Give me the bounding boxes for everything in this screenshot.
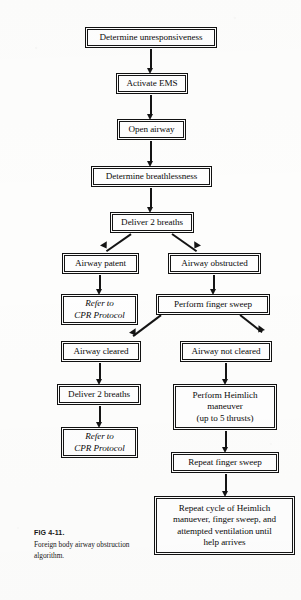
connector-n2-n3 bbox=[150, 95, 152, 116]
arrowhead-n11-n14 bbox=[222, 379, 228, 385]
flow-node-line: Repeat cycle of Heimlich bbox=[179, 503, 270, 513]
figure-caption: FIG 4-11. Foreign body airway obstructio… bbox=[34, 528, 152, 561]
flow-node-airway-cleared: Airway cleared bbox=[63, 343, 139, 360]
flow-node-label: Airway patent bbox=[75, 258, 126, 268]
flow-node-label: Deliver 2 breaths bbox=[68, 389, 130, 399]
flow-node-label: Repeat finger sweep bbox=[188, 457, 261, 467]
flow-node-determine-unresponsiveness: Determine unresponsiveness bbox=[87, 29, 215, 46]
flow-node-line: Refer to bbox=[85, 431, 114, 441]
flow-node-label: Repeat cycle of Heimlich manuever, finge… bbox=[173, 503, 276, 548]
flow-node-line: attempted ventilation until bbox=[177, 526, 272, 536]
flow-node-determine-breathlessness: Determine breathlessness bbox=[93, 168, 210, 185]
arrowhead-n2-n3 bbox=[147, 114, 153, 120]
arrowhead-n9-n11 bbox=[255, 325, 265, 335]
flow-node-label: Open airway bbox=[128, 124, 174, 134]
flow-node-label: Refer to CPR Protocol bbox=[74, 298, 124, 321]
connector-n5-n6 bbox=[106, 233, 132, 252]
flow-node-label: Perform Heimlich maneuver (up to 5 thrus… bbox=[192, 390, 257, 424]
flow-node-perform-finger-sweep: Perform finger sweep bbox=[158, 296, 268, 313]
flow-node-refer-to-cpr-protocol-bottom: Refer to CPR Protocol bbox=[63, 429, 136, 456]
connector-n1-n2 bbox=[150, 49, 152, 70]
flow-node-line: help arrives bbox=[203, 537, 245, 547]
flow-node-repeat-finger-sweep: Repeat finger sweep bbox=[173, 454, 277, 471]
flow-node-activate-ems: Activate EMS bbox=[118, 75, 186, 92]
flow-node-repeat-cycle-of-heimlich: Repeat cycle of Heimlich manuever, finge… bbox=[156, 498, 293, 553]
flow-node-label: Refer to CPR Protocol bbox=[74, 431, 124, 454]
arrowhead-n3-n4 bbox=[147, 161, 153, 167]
flow-node-line: manuever, finger sweep, and bbox=[173, 514, 276, 524]
arrowhead-n12-n13 bbox=[96, 422, 102, 428]
flow-node-airway-not-cleared: Airway not cleared bbox=[182, 343, 270, 360]
flow-node-label: Determine unresponsiveness bbox=[100, 32, 203, 42]
arrowhead-n14-n15 bbox=[222, 447, 228, 453]
flow-node-airway-patent: Airway patent bbox=[64, 255, 137, 272]
flow-node-line: maneuver bbox=[207, 401, 242, 411]
figure-page: Determine unresponsiveness Activate EMS … bbox=[0, 0, 301, 600]
flow-node-label: Determine breathlessness bbox=[106, 171, 197, 181]
flow-node-label: Airway obstructed bbox=[181, 258, 248, 268]
flow-node-label: Perform finger sweep bbox=[174, 299, 252, 309]
flow-node-perform-heimlich-maneuver: Perform Heimlich maneuver (up to 5 thrus… bbox=[175, 386, 275, 428]
arrowhead-n4-n5 bbox=[147, 207, 153, 213]
flow-node-label: Activate EMS bbox=[126, 78, 177, 88]
connector-n3-n4 bbox=[150, 141, 152, 163]
figure-caption-text: Foreign body airway obstruction algorith… bbox=[34, 539, 152, 561]
flow-node-deliver-2-breaths-top: Deliver 2 breaths bbox=[112, 214, 192, 231]
flow-node-label: Airway not cleared bbox=[192, 346, 261, 356]
flow-node-line: Perform Heimlich bbox=[192, 390, 257, 400]
flow-node-line: CPR Protocol bbox=[74, 443, 124, 453]
arrowhead-n1-n2 bbox=[147, 68, 153, 74]
flow-node-label: Deliver 2 breaths bbox=[121, 217, 183, 227]
connector-n4-n5 bbox=[150, 188, 152, 209]
flow-node-open-airway: Open airway bbox=[119, 121, 184, 138]
arrowhead-n15-n16 bbox=[222, 491, 228, 497]
flow-node-line: Refer to bbox=[85, 298, 114, 308]
arrowhead-n10-n12 bbox=[96, 379, 102, 385]
flow-node-line: CPR Protocol bbox=[74, 310, 124, 320]
flow-node-refer-to-cpr-protocol-left: Refer to CPR Protocol bbox=[63, 296, 136, 323]
arrowhead-n6-n8 bbox=[96, 289, 102, 295]
arrowhead-n9-n10 bbox=[129, 328, 139, 337]
flow-node-deliver-2-breaths-bottom: Deliver 2 breaths bbox=[59, 386, 139, 403]
arrowhead-n7-n9 bbox=[210, 289, 216, 295]
figure-number-label: FIG 4-11. bbox=[34, 528, 152, 539]
flow-node-line: (up to 5 thrusts) bbox=[197, 413, 254, 423]
flow-node-airway-obstructed: Airway obstructed bbox=[170, 255, 259, 272]
flow-node-label: Airway cleared bbox=[73, 346, 128, 356]
